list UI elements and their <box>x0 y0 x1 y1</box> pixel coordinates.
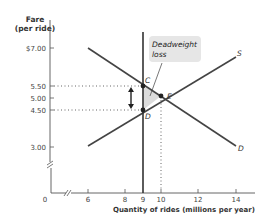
double-arrow-icon <box>128 87 134 109</box>
demand-label: D <box>238 144 244 153</box>
annotation-line2: loss <box>152 50 167 59</box>
y-axis-label-line1: Fare <box>26 15 45 24</box>
y-axis <box>47 20 53 193</box>
x-tick-8: 8 <box>123 196 127 204</box>
point-c-label: C <box>145 76 151 85</box>
y-axis-label-line2: (per ride) <box>15 24 55 33</box>
x-tick-12: 12 <box>194 196 203 204</box>
supply-label: S <box>237 49 242 58</box>
x-tick-14: 14 <box>232 196 241 204</box>
x-axis <box>51 190 255 196</box>
x-ticks: 0 6 8 9 10 12 14 <box>43 189 241 204</box>
x-tick-10: 10 <box>157 196 166 204</box>
y-tick-5.50: 5.50 <box>30 83 46 91</box>
supply-curve <box>88 57 236 146</box>
y-tick-4.50: 4.50 <box>30 107 46 115</box>
annotation-line1: Deadweight <box>152 40 198 49</box>
point-e-label: E <box>167 92 172 101</box>
y-tick-5.00: 5.00 <box>30 95 46 103</box>
x-tick-0: 0 <box>43 196 47 204</box>
x-tick-6: 6 <box>86 196 91 204</box>
y-tick-7: $7.00 <box>26 45 46 53</box>
x-tick-9: 9 <box>141 196 145 204</box>
chart: Fare (per ride) $7.00 5.50 5.00 4.50 3.0… <box>0 0 271 215</box>
x-axis-label: Quantity of rides (millions per year) <box>113 206 255 214</box>
deadweight-loss-annotation: Deadweight loss <box>149 36 201 96</box>
point-d-label: D <box>145 112 151 121</box>
y-tick-3.00: 3.00 <box>30 144 46 152</box>
point-e <box>159 94 164 99</box>
